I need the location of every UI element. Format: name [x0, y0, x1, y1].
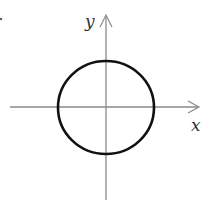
margin-dot	[0, 18, 2, 20]
x-axis	[10, 101, 199, 113]
coordinate-plane: y x	[0, 0, 211, 201]
x-axis-label: x	[191, 115, 201, 135]
y-axis-label: y	[84, 11, 95, 31]
